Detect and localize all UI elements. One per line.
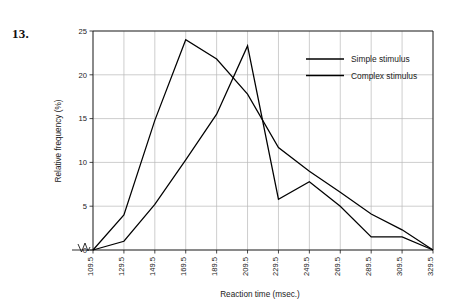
x-tick-labels: 109.5129.5149.5169.5189.5209.5229.5249.5… [86,257,435,276]
legend-label-1: Simple stimulus [351,54,410,64]
x-tick-label: 169.5 [179,257,188,276]
y-tick-label: 25 [79,27,87,36]
x-axis-title: Reaction time (msec.) [220,290,300,299]
frequency-polygon-chart: 109.5129.5149.5169.5189.5209.5229.5249.5… [0,0,452,308]
y-tick-label: 20 [79,71,87,80]
y-axis-title: Relative frequency (%) [54,99,63,182]
chart-legend: Simple stimulusComplex stimulus [306,54,417,81]
x-tick-label: 189.5 [210,257,219,276]
x-tick-label: 129.5 [117,257,126,276]
x-tick-label: 329.5 [426,257,435,276]
x-tick-label: 269.5 [333,257,342,276]
x-tick-label: 289.5 [364,257,373,276]
x-tick-label: 309.5 [395,257,404,276]
y-tick-label: 0 [83,246,87,255]
y-tick-labels: 0510152025 [79,27,87,255]
axis-lines [72,31,433,252]
figure-root: 13. 109.5129.5149.5169.5189.5209.5229.52… [0,0,452,308]
x-tick-label: 229.5 [271,257,280,276]
x-tick-label: 149.5 [148,257,157,276]
y-tick-label: 15 [79,114,87,123]
y-tick-label: 10 [79,158,87,167]
x-tick-label: 109.5 [86,257,95,276]
legend-label-2: Complex stimulus [351,71,417,81]
x-tick-label: 209.5 [241,257,250,276]
y-tick-label: 5 [83,202,87,211]
x-tick-label: 249.5 [302,257,311,276]
